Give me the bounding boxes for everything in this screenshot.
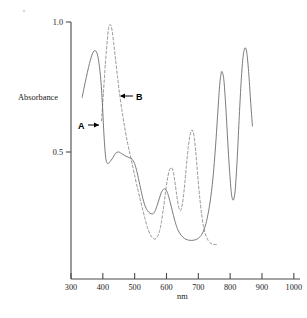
x-tick-label: 1000 [286, 283, 302, 292]
x-tick-label: 700 [192, 283, 204, 292]
x-tick-label: 600 [160, 283, 172, 292]
x-tick-label: 900 [256, 283, 268, 292]
spectrum-plot: 1.00.5 3004005006007008009001000 A B Abs… [0, 0, 307, 318]
series-a-label: A [78, 121, 85, 131]
x-tick-label: 500 [129, 283, 141, 292]
x-tick-label: 300 [65, 283, 77, 292]
y-tick-label: 0.5 [53, 148, 63, 157]
absorbance-spectrum-figure: 1.00.5 3004005006007008009001000 A B Abs… [0, 0, 307, 318]
y-axis-title: Absorbance [18, 93, 58, 102]
plot-background [0, 0, 307, 318]
y-tick-label: 1.0 [53, 18, 63, 27]
x-tick-label: 800 [224, 283, 236, 292]
series-b-label: B [136, 92, 143, 102]
x-axis-title: nm [177, 292, 188, 301]
scan-speck [23, 10, 25, 12]
x-tick-label: 400 [97, 283, 109, 292]
